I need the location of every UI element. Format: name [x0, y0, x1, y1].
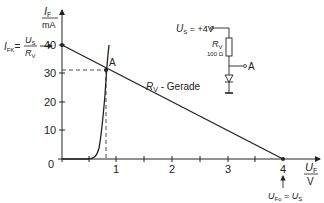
- svg-text:mA: mA: [42, 20, 56, 30]
- x-tick-2: 2: [169, 163, 175, 175]
- diode-load-line-diagram: 10 20 30 40 0 1 2 3 4 IF mA UF V A RV - …: [0, 0, 324, 203]
- ufo-annotation: UFo = US: [268, 176, 302, 202]
- y-tick-20: 20: [44, 96, 56, 108]
- svg-text:IFK=: IFK=: [4, 41, 20, 53]
- svg-text:US: US: [25, 35, 36, 46]
- x-tick-4: 4: [280, 163, 286, 175]
- x-tick-1: 1: [113, 163, 119, 175]
- supply-label: US = +4V: [176, 23, 214, 35]
- svg-text:IF: IF: [44, 5, 51, 18]
- output-label: A: [248, 61, 255, 72]
- ufo-point: [281, 157, 285, 161]
- x-axis-label: UF V: [304, 161, 318, 187]
- svg-text:UF: UF: [305, 161, 317, 174]
- resistor-label: RV: [212, 39, 223, 50]
- y-axis-label: IF mA: [42, 5, 58, 30]
- y-tick-30: 30: [44, 67, 56, 79]
- origin-label: 0: [48, 158, 54, 170]
- ifk-point: [60, 43, 64, 47]
- svg-text:V: V: [307, 176, 314, 187]
- diode-curve: [62, 45, 109, 159]
- point-a-label: A: [109, 57, 116, 68]
- resistor-value: 100 Ω: [207, 51, 224, 57]
- operating-point-a: [104, 68, 108, 72]
- y-tick-10: 10: [44, 124, 56, 136]
- x-tick-3: 3: [225, 163, 231, 175]
- svg-text:RV: RV: [25, 48, 36, 59]
- resistor-symbol: [226, 38, 232, 56]
- svg-text:UFo = US: UFo = US: [268, 191, 302, 202]
- diode-symbol: [225, 75, 233, 93]
- load-line-label: RV - Gerade: [146, 81, 201, 93]
- y-tick-40: 40: [44, 39, 56, 51]
